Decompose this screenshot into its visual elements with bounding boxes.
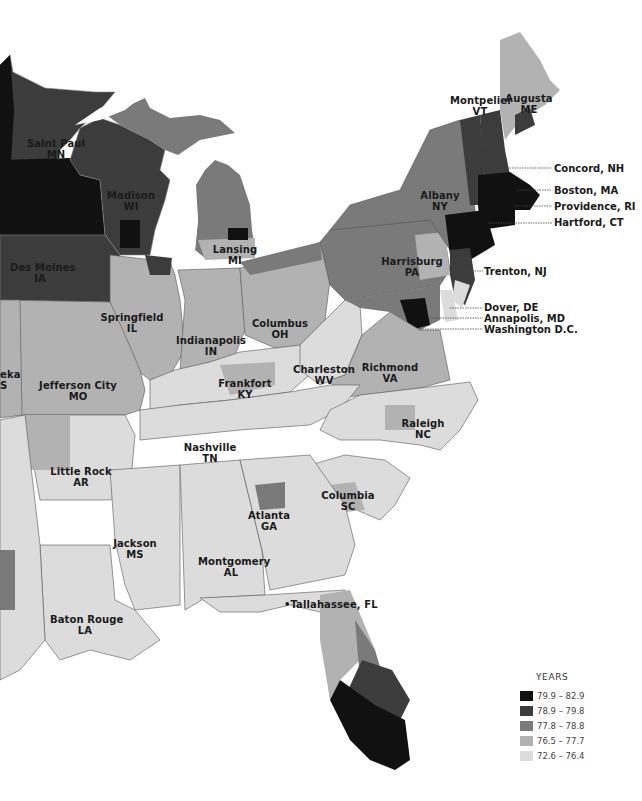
- legend-item: 78.9 – 79.8: [520, 703, 630, 718]
- callout-trenton: Trenton, NJ: [484, 266, 547, 277]
- label-saint-paul: Saint Paul MN: [26, 138, 86, 160]
- label-atlanta: Atlanta GA: [246, 510, 292, 532]
- legend-swatch: [520, 706, 533, 716]
- legend-swatch: [520, 736, 533, 746]
- label-augusta: Augusta ME: [504, 93, 554, 115]
- callout-providence: Providence, RI: [554, 201, 636, 212]
- label-albany: Albany NY: [418, 190, 462, 212]
- label-nashville: Nashville TN: [180, 442, 240, 464]
- label-des-moines: Des Moines IA: [10, 262, 70, 284]
- label-frankfort: Frankfort KY: [215, 378, 275, 400]
- legend-swatch: [520, 751, 533, 761]
- label-madison: Madison WI: [106, 190, 156, 212]
- label-little-rock: Little Rock AR: [46, 466, 116, 488]
- region-kansas-edge: [0, 300, 22, 418]
- label-richmond: Richmond VA: [360, 362, 420, 384]
- label-harrisburg: Harrisburg PA: [380, 256, 444, 278]
- label-lansing: Lansing MI: [210, 244, 260, 266]
- callout-dover: Dover, DE: [484, 302, 538, 313]
- label-indianapolis: Indianapolis IN: [176, 335, 246, 357]
- callout-hartford: Hartford, CT: [554, 217, 624, 228]
- label-springfield: Springfield IL: [100, 312, 164, 334]
- legend: YEARS 79.9 – 82.9 78.9 – 79.8 77.8 – 78.…: [520, 672, 630, 763]
- label-topeka: eka S: [0, 369, 20, 391]
- lake-michigan: [170, 155, 198, 270]
- callout-boston: Boston, MA: [554, 185, 618, 196]
- region-massachusetts: [478, 172, 540, 210]
- label-jefferson-city: Jefferson City MO: [38, 380, 118, 402]
- legend-item: 77.8 – 78.8: [520, 718, 630, 733]
- label-charleston: Charleston WV: [292, 364, 356, 386]
- callout-concord: Concord, NH: [554, 163, 624, 174]
- legend-item: 72.6 – 76.4: [520, 748, 630, 763]
- region-arkansas-nw: [25, 415, 70, 470]
- label-columbia: Columbia SC: [320, 490, 376, 512]
- label-baton-rouge: Baton Rouge LA: [50, 614, 120, 636]
- region-wisconsin-dane: [120, 220, 140, 248]
- legend-item: 79.9 – 82.9: [520, 688, 630, 703]
- label-jackson: Jackson MS: [110, 538, 160, 560]
- label-raleigh: Raleigh NC: [398, 418, 448, 440]
- legend-swatch: [520, 721, 533, 731]
- region-lansing-dark: [228, 228, 248, 240]
- callout-washington: Washington D.C.: [484, 324, 578, 335]
- legend-item: 76.5 – 77.7: [520, 733, 630, 748]
- region-connecticut: [478, 205, 515, 230]
- region-atlanta: [255, 482, 285, 510]
- region-texas-mid: [0, 550, 15, 610]
- label-tallahassee: •Tallahassee, FL: [284, 599, 378, 610]
- legend-swatch: [520, 691, 533, 701]
- label-columbus: Columbus OH: [250, 318, 310, 340]
- legend-title: YEARS: [536, 672, 630, 682]
- label-montgomery: Montgomery AL: [198, 556, 264, 578]
- label-montpelier: Montpelier VT: [450, 95, 510, 117]
- callout-annapolis: Annapolis, MD: [484, 313, 565, 324]
